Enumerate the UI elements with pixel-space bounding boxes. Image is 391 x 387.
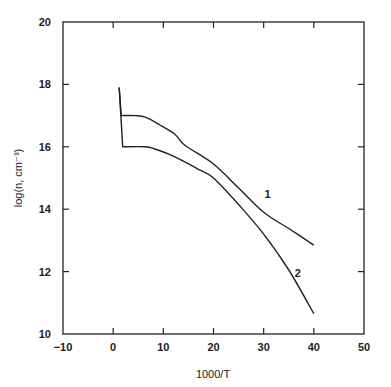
x-tick-label: 20 (207, 341, 219, 353)
x-tick-label: −10 (54, 341, 73, 353)
y-axis: 101214161820 (39, 16, 364, 340)
series-label-2: 2 (295, 267, 301, 279)
x-tick-label: 0 (110, 341, 116, 353)
series-line-1 (119, 88, 314, 246)
y-tick-label: 20 (39, 16, 51, 28)
series-label-1: 1 (265, 188, 271, 200)
chart: −1001020304050 101214161820 12 1000/T lo… (0, 0, 391, 387)
y-tick-label: 10 (39, 328, 51, 340)
series-line-2 (119, 88, 314, 314)
series-group: 12 (119, 88, 314, 314)
y-tick-label: 16 (39, 141, 51, 153)
x-tick-label: 10 (157, 341, 169, 353)
x-axis-label: 1000/T (196, 368, 231, 380)
y-tick-label: 12 (39, 266, 51, 278)
y-tick-label: 14 (39, 203, 52, 215)
x-tick-label: 40 (308, 341, 320, 353)
x-axis: −1001020304050 (54, 22, 370, 353)
y-tick-label: 18 (39, 78, 51, 90)
y-axis-label: log(n, cm⁻³) (12, 149, 24, 208)
x-tick-label: 30 (258, 341, 270, 353)
x-tick-label: 50 (358, 341, 370, 353)
